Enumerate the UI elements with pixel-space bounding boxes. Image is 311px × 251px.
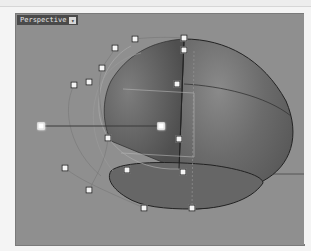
model-geometry: [16, 14, 304, 245]
control-point[interactable]: [180, 169, 187, 176]
triangle-down-icon: ▾: [69, 17, 76, 24]
control-point[interactable]: [112, 45, 119, 52]
control-point[interactable]: [62, 165, 69, 172]
control-point[interactable]: [99, 65, 106, 72]
control-point[interactable]: [132, 36, 139, 43]
control-point[interactable]: [181, 47, 188, 54]
control-point[interactable]: [158, 123, 165, 130]
window-top-strip: [0, 0, 311, 7]
control-point[interactable]: [105, 135, 112, 142]
viewport-title-label: Perspective: [20, 15, 66, 25]
control-point[interactable]: [86, 187, 93, 194]
window-right-margin: [304, 13, 311, 244]
control-point[interactable]: [189, 205, 196, 212]
control-point[interactable]: [38, 123, 45, 130]
viewport-title-dropdown[interactable]: Perspective ▾: [17, 15, 78, 25]
control-point[interactable]: [86, 79, 93, 86]
control-point[interactable]: [176, 136, 183, 143]
control-point[interactable]: [181, 35, 188, 42]
control-point[interactable]: [71, 82, 78, 89]
control-point[interactable]: [174, 81, 181, 88]
perspective-viewport[interactable]: Perspective ▾: [15, 13, 305, 246]
control-point[interactable]: [141, 205, 148, 212]
control-point[interactable]: [124, 167, 131, 174]
